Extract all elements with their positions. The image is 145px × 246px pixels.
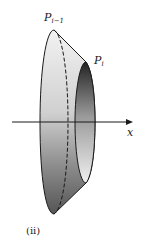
label-p-i: Pi: [94, 55, 104, 68]
label-p-subscript: i−1: [51, 17, 64, 25]
label-p-i-minus-1: Pi−1: [44, 12, 64, 25]
figure-caption: (ii): [26, 226, 40, 236]
frustum-diagram: [0, 0, 145, 246]
axis-label-x: x: [127, 127, 133, 138]
label-p-subscript: i: [101, 60, 103, 68]
x-axis-arrow-icon: [126, 119, 133, 125]
